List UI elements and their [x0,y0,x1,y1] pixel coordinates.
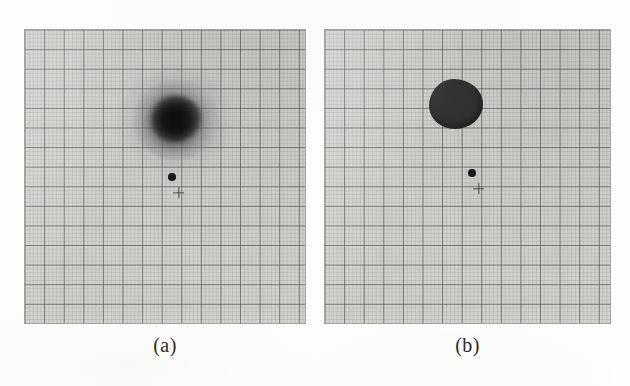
caption-panel-a: (a) [25,334,305,357]
panel-b [325,30,610,323]
grid-lines-panel-b [325,30,610,323]
caption-panel-b: (b) [325,334,610,357]
figure-root: (a) (b) [0,0,630,386]
panel-a [25,30,305,323]
grid-lines-panel-a [25,30,305,323]
